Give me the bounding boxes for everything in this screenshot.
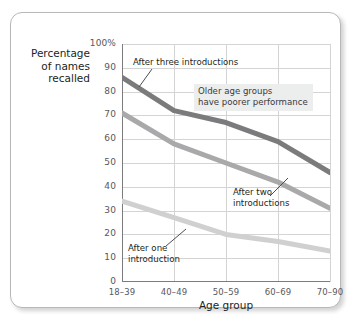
y-axis-tick-label: 100% [82, 38, 116, 48]
x-axis-tick-label: 18–39 [99, 287, 145, 297]
annotation-after-two-introductions: After two introductions [233, 187, 289, 208]
series-line [122, 113, 330, 208]
annotation-after-one-introduction: After one introduction [128, 243, 180, 264]
x-axis-title: Age group [122, 299, 330, 311]
y-axis-tick-label: 30 [82, 205, 116, 215]
y-axis-title: Percentage of names recalled [18, 47, 90, 85]
y-axis-tick-label: 60 [82, 133, 116, 143]
x-axis-tick-label: 60–69 [255, 287, 301, 297]
x-axis-tick-label: 40–49 [151, 287, 197, 297]
y-axis-tick-label: 40 [82, 181, 116, 191]
y-axis-tick-label: 10 [82, 252, 116, 262]
annotation-after-three-introductions: After three introductions [133, 57, 238, 68]
y-axis-title-line-2: of names [18, 60, 90, 73]
x-axis-tick-label: 50–59 [203, 287, 249, 297]
y-axis-tick-label: 70 [82, 109, 116, 119]
y-axis-tick-label: 0 [82, 276, 116, 286]
y-axis-tick-label: 50 [82, 157, 116, 167]
y-axis-tick-label: 20 [82, 228, 116, 238]
y-axis-title-line-3: recalled [18, 72, 90, 85]
x-axis-tick-label: 70–90 [307, 287, 353, 297]
y-axis-tick-label: 80 [82, 86, 116, 96]
annotation-older-age-groups-note: Older age groups have poorer performance [194, 84, 313, 111]
y-axis-title-line-1: Percentage [18, 47, 90, 60]
y-axis-tick-label: 90 [82, 62, 116, 72]
chart-figure: Percentage of names recalled 01020304050… [0, 0, 357, 330]
gridline-vertical [330, 44, 331, 282]
